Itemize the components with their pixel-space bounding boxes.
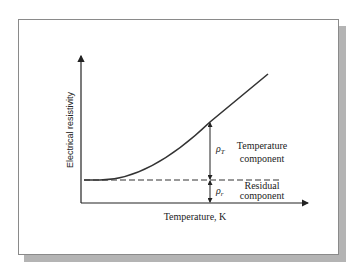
x-axis-label: Temperature, K: [164, 211, 227, 222]
rho-t-symbol: ρT: [215, 143, 226, 156]
residual-component-label-2: component: [240, 190, 285, 201]
y-axis-label: Electrical resistivity: [65, 91, 75, 168]
temperature-component-label-2: component: [240, 153, 285, 164]
rho-r-symbol: ρr: [215, 185, 224, 198]
resistivity-diagram: Electrical resistivity Temperature, K ρT…: [0, 0, 358, 277]
temperature-component-label-1: Temperature: [237, 140, 288, 151]
resistivity-curve: [84, 74, 268, 180]
